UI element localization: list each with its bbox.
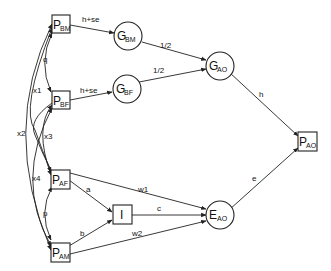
label-q: q: [43, 55, 47, 64]
svg-text:BF: BF: [60, 101, 69, 108]
edge-gbf-gao: [134, 69, 206, 83]
label-x2: x2: [17, 129, 26, 138]
label-x4: x4: [32, 174, 41, 183]
svg-text:AF: AF: [59, 180, 68, 187]
edge-gao-pao: [229, 72, 298, 136]
label-gao-pao: h: [259, 90, 263, 99]
node-pbm: P BM: [52, 15, 71, 33]
label-pam-eao: w2: [131, 229, 143, 238]
svg-text:AO: AO: [217, 215, 228, 222]
label-x3: x3: [44, 132, 53, 141]
node-paf: P AF: [51, 170, 70, 189]
svg-text:E: E: [209, 208, 217, 222]
label-pam-i: b: [80, 229, 85, 238]
node-pbf: P BF: [52, 91, 70, 109]
edge-gbm-gao: [142, 42, 206, 60]
node-gao: G AO: [206, 52, 234, 80]
edge-pbm-gbm: [70, 25, 114, 33]
label-gbm-gao: 1/2: [160, 41, 172, 50]
label-p: p: [43, 209, 48, 218]
svg-text:AO: AO: [306, 142, 317, 149]
label-pbm-gbm: h+se: [82, 15, 100, 24]
node-gbm: G BM: [114, 22, 142, 50]
path-diagram: P BM P BF P AF P AM G BM G BF G AO I E A…: [0, 0, 331, 271]
edge-pam-i: [69, 220, 112, 246]
svg-text:BM: BM: [125, 36, 136, 43]
label-paf-eao: w1: [137, 185, 149, 194]
edge-paf-i: [69, 180, 112, 212]
svg-text:BF: BF: [124, 89, 133, 96]
label-eao-pao: e: [252, 174, 257, 183]
node-pam: P AM: [51, 243, 70, 262]
label-pbf-gbf: h+se: [80, 86, 98, 95]
node-pao: P AO: [298, 132, 317, 151]
svg-text:BM: BM: [60, 25, 71, 32]
node-gbf: G BF: [113, 75, 141, 103]
node-i: I: [113, 205, 132, 224]
svg-text:I: I: [120, 208, 123, 222]
edge-eao-pao: [229, 148, 298, 210]
svg-text:AO: AO: [217, 66, 228, 73]
label-x1: x1: [33, 86, 42, 95]
label-paf-i: a: [86, 185, 91, 194]
node-eao: E AO: [206, 201, 234, 229]
label-gbf-gao: 1/2: [153, 66, 165, 75]
svg-text:AM: AM: [59, 253, 70, 260]
label-i-eao: c: [157, 204, 161, 213]
